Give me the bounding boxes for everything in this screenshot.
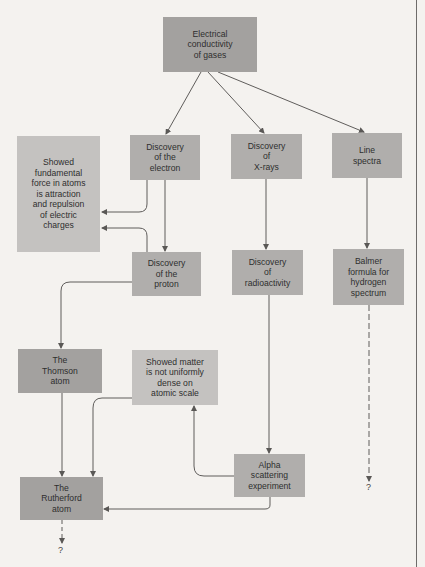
edge-alpha-rutherford	[104, 497, 270, 509]
node-discovery-electron: Discovery of the electron	[130, 135, 200, 180]
unknown-marker-balmer: ?	[366, 482, 371, 492]
edge-conductivity-electron	[166, 72, 201, 134]
node-balmer-formula: Balmer formula for hydrogen spectrum	[333, 249, 404, 305]
edge-proton-thomson	[61, 282, 132, 348]
node-discovery-xrays: Discovery of X-rays	[231, 134, 302, 179]
edge-matter-rutherford	[93, 398, 132, 476]
edge-conductivity-xrays	[208, 72, 264, 133]
node-discovery-radioactivity: Discovery of radioactivity	[232, 250, 303, 295]
node-electrical-conductivity: Electrical conductivity of gases	[163, 17, 257, 72]
unknown-marker-rutherford: ?	[58, 545, 63, 555]
node-rutherford-atom: The Rutherford atom	[20, 477, 103, 520]
edge-proton-force	[102, 228, 147, 252]
edge-conductivity-linespectra	[218, 72, 364, 132]
page-margin-rule	[416, 0, 417, 567]
node-matter-not-uniform: Showed matter is not uniformly dense on …	[132, 350, 218, 405]
node-discovery-proton: Discovery of the proton	[132, 252, 201, 296]
node-fundamental-force: Showed fundamental force in atoms is att…	[17, 136, 100, 252]
node-thomson-atom: The Thomson atom	[18, 349, 102, 393]
edge-alpha-matter	[194, 406, 234, 476]
node-line-spectra: Line spectra	[332, 133, 402, 178]
edge-electron-force	[102, 180, 147, 212]
node-alpha-scattering: Alpha scattering experiment	[234, 454, 305, 497]
